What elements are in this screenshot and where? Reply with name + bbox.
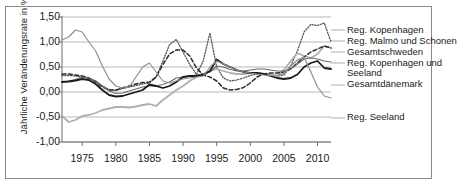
legend-entry-label: Seeland bbox=[347, 68, 382, 79]
legend-entry-label: Reg. Seeland bbox=[347, 112, 405, 123]
legend-entry-label: Gesamtdänemark bbox=[347, 79, 423, 90]
legend-entry-label: Reg. Malmö und Schonen bbox=[347, 36, 457, 47]
legend-entry-label: Reg. Kopenhagen bbox=[347, 25, 424, 36]
legend-entry-label: Gesamtschweden bbox=[347, 47, 423, 58]
